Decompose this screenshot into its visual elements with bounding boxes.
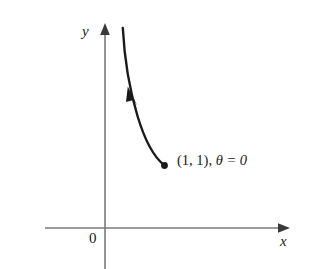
point-annotation-label: (1, 1), θ = 0 — [177, 153, 247, 168]
origin-label: 0 — [89, 231, 97, 246]
x-axis-label: x — [280, 234, 287, 249]
x-axis-arrowhead — [278, 223, 290, 233]
plot-canvas — [0, 0, 311, 269]
theta-value-text: θ = 0 — [216, 152, 247, 168]
parametric-curve-figure: y x 0 (1, 1), θ = 0 — [0, 0, 311, 269]
point-coordinates-text: (1, 1), — [177, 152, 216, 168]
y-axis-label: y — [82, 24, 89, 39]
point-marker — [161, 162, 168, 169]
y-axis-arrowhead — [100, 23, 110, 35]
